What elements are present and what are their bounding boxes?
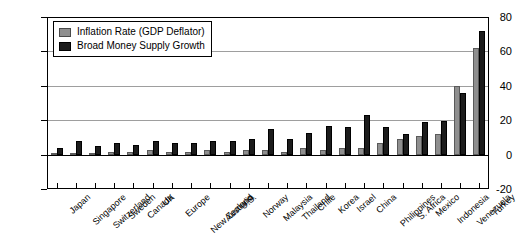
xtick-mark xyxy=(441,183,442,189)
xtick-mark xyxy=(403,183,404,189)
legend-item-inflation: Inflation Rate (GDP Deflator) xyxy=(59,25,205,39)
bar-money-supply xyxy=(345,127,351,155)
xaxis-label-text: Europe xyxy=(183,192,211,219)
bar-money-supply xyxy=(306,133,312,155)
bar-money-supply xyxy=(326,126,332,155)
xtick-mark xyxy=(383,183,384,189)
bar-money-supply xyxy=(95,146,101,155)
xaxis-label-text: Chile xyxy=(316,192,338,213)
legend-label-money-supply: Broad Money Supply Growth xyxy=(77,41,205,51)
xtick-mark xyxy=(326,183,327,189)
xtick-mark xyxy=(172,183,173,189)
legend-label-inflation: Inflation Rate (GDP Deflator) xyxy=(77,27,205,37)
xtick-mark xyxy=(364,183,365,189)
bar-money-supply xyxy=(403,134,409,155)
xtick-mark xyxy=(133,183,134,189)
xtick-mark xyxy=(114,183,115,189)
bar-money-supply xyxy=(460,93,466,155)
xtick-mark xyxy=(249,183,250,189)
bar-money-supply xyxy=(249,139,255,155)
bar-money-supply xyxy=(364,115,370,155)
chart-legend: Inflation Rate (GDP Deflator) Broad Mone… xyxy=(53,21,212,57)
legend-item-money-supply: Broad Money Supply Growth xyxy=(59,39,205,53)
xtick-mark xyxy=(479,183,480,189)
ytick-mark-0 xyxy=(41,155,47,156)
xtick-mark xyxy=(153,183,154,189)
xtick-mark xyxy=(287,183,288,189)
xtick-mark xyxy=(422,183,423,189)
legend-swatch-money-supply-icon xyxy=(59,42,71,51)
xtick-mark xyxy=(306,183,307,189)
xtick-mark xyxy=(460,183,461,189)
bar-money-supply xyxy=(210,141,216,155)
legend-swatch-inflation-icon xyxy=(59,28,71,37)
xaxis-label-text: Japan xyxy=(67,192,92,216)
bar-money-supply xyxy=(422,122,428,155)
xtick-mark xyxy=(57,183,58,189)
bar-money-supply xyxy=(287,139,293,155)
xtick-mark xyxy=(76,183,77,189)
bar-money-supply xyxy=(191,143,197,155)
xtick-mark xyxy=(191,183,192,189)
bar-money-supply xyxy=(153,141,159,155)
bar-money-supply xyxy=(268,129,274,155)
xaxis-label-text: China xyxy=(374,192,398,215)
bar-money-supply xyxy=(57,148,63,155)
xtick-mark xyxy=(268,183,269,189)
bar-money-supply xyxy=(479,31,485,155)
bar-money-supply xyxy=(133,145,139,155)
xtick-mark xyxy=(95,183,96,189)
xaxis-label-text: Israel xyxy=(355,192,378,214)
xtick-mark xyxy=(230,183,231,189)
xtick-mark xyxy=(345,183,346,189)
ytick-mark-neg20 xyxy=(41,189,47,190)
bar-money-supply xyxy=(172,143,178,155)
xtick-mark xyxy=(210,183,211,189)
bar-money-supply xyxy=(114,143,120,155)
bar-money-supply xyxy=(230,141,236,155)
bar-money-supply xyxy=(76,141,82,155)
bar-money-supply xyxy=(441,121,447,156)
bar-money-supply xyxy=(383,127,389,155)
